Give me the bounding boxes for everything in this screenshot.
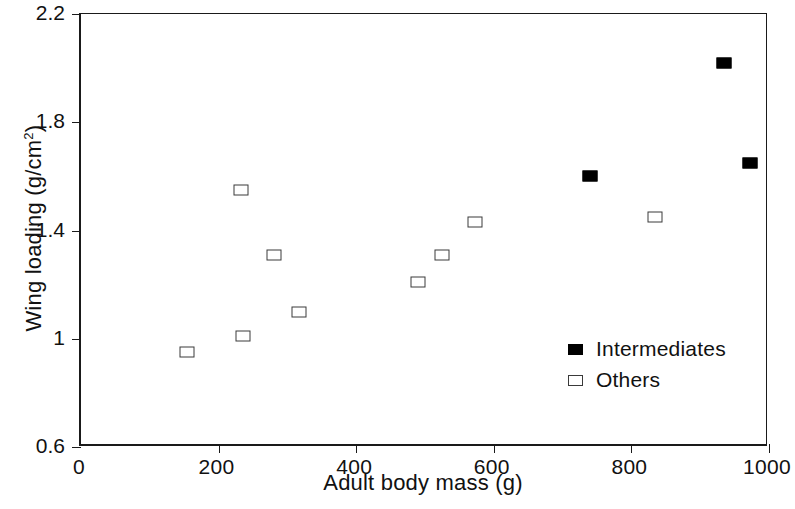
data-point-open-square — [267, 249, 282, 260]
scatter-plot-figure: 0.611.41.82.2 02004006008001000 Adult bo… — [0, 0, 795, 509]
legend-label: Intermediates — [596, 337, 726, 361]
data-point-filled-square — [743, 157, 758, 168]
data-point-open-square — [234, 184, 249, 195]
data-point-open-square — [467, 217, 482, 228]
data-point-filled-square — [583, 171, 598, 182]
legend-entry: Intermediates — [568, 337, 726, 361]
x-axis-tick — [494, 444, 495, 453]
x-axis-tick — [219, 444, 220, 453]
y-axis-tick — [72, 14, 81, 15]
y-tick-label: 2.2 — [36, 1, 65, 25]
x-axis-tick — [769, 444, 770, 453]
y-axis-tick — [72, 122, 81, 123]
y-axis-tick — [72, 447, 81, 448]
data-point-open-square — [179, 347, 194, 358]
y-axis-title-suffix: ) — [21, 125, 46, 133]
legend-swatch-open — [568, 375, 583, 386]
y-axis-title-exponent: 2 — [21, 132, 36, 139]
y-axis-tick — [72, 339, 81, 340]
y-axis-tick — [72, 231, 81, 232]
data-point-open-square — [236, 331, 251, 342]
x-axis-title: Adult body mass (g) — [79, 470, 767, 496]
data-point-open-square — [647, 211, 662, 222]
data-point-open-square — [435, 249, 450, 260]
y-axis-title-main: Wing loading (g/cm — [21, 140, 46, 332]
x-axis-tick — [631, 444, 632, 453]
y-tick-label: 1 — [53, 326, 65, 350]
data-point-open-square — [411, 276, 426, 287]
legend-entry: Others — [568, 368, 726, 392]
legend-label: Others — [596, 368, 660, 392]
x-axis-tick — [356, 444, 357, 453]
chart-legend: IntermediatesOthers — [568, 337, 726, 392]
data-point-open-square — [292, 306, 307, 317]
y-tick-label: 0.6 — [36, 434, 65, 458]
y-axis-title: Wing loading (g/cm2) — [21, 28, 47, 428]
data-point-filled-square — [717, 57, 732, 68]
legend-swatch-filled — [568, 344, 583, 355]
